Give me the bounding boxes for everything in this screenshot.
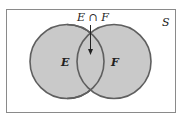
intersection-label: E ∩ F xyxy=(76,11,109,24)
universe-label: S xyxy=(162,16,170,29)
set-e-label: E xyxy=(60,56,70,69)
venn-diagram: E ∩ F S E F xyxy=(0,0,187,115)
set-f-label: F xyxy=(110,56,120,69)
